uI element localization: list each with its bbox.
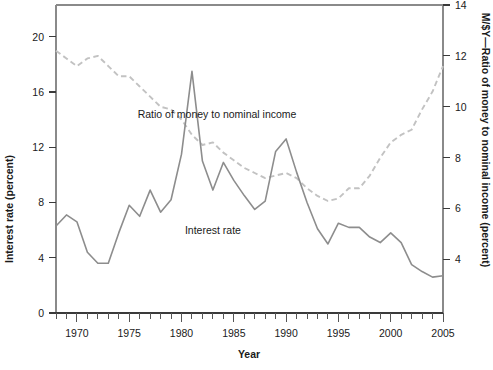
y-right-tick-label: 4 [455, 253, 461, 265]
y-axis-left-title: Interest rate (percent) [3, 155, 15, 263]
x-tick-label: 1970 [65, 327, 89, 339]
y-left-tick-label: 4 [38, 252, 44, 264]
y-left-tick-label: 20 [32, 31, 44, 43]
chart-background [0, 0, 493, 370]
x-tick-label: 1990 [274, 327, 298, 339]
x-tick-label: 2005 [431, 327, 455, 339]
x-tick-label: 1980 [170, 327, 194, 339]
interest-series-label: Interest rate [185, 224, 241, 236]
y-right-tick-label: 14 [455, 0, 467, 11]
y-left-tick-label: 0 [38, 307, 44, 319]
x-tick-label: 1985 [222, 327, 246, 339]
x-axis-title: Year [238, 348, 260, 360]
y-axis-right-title: M/$Y—Ratio of money to nominal income (p… [480, 13, 492, 267]
x-tick-label: 1995 [327, 327, 351, 339]
y-right-tick-label: 6 [455, 202, 461, 214]
chart-figure: 19701975198019851990199520002005 0481216… [0, 0, 493, 370]
x-tick-label: 1975 [118, 327, 142, 339]
y-left-tick-label: 16 [32, 86, 44, 98]
y-right-tick-label: 8 [455, 152, 461, 164]
y-left-tick-label: 12 [32, 141, 44, 153]
ratio-series-label: Ratio of money to nominal income [138, 108, 297, 120]
interest-rate-money-ratio-chart: 19701975198019851990199520002005 0481216… [0, 0, 493, 370]
y-right-tick-label: 10 [455, 101, 467, 113]
y-right-tick-label: 12 [455, 50, 467, 62]
y-left-tick-label: 8 [38, 196, 44, 208]
x-tick-label: 2000 [379, 327, 403, 339]
